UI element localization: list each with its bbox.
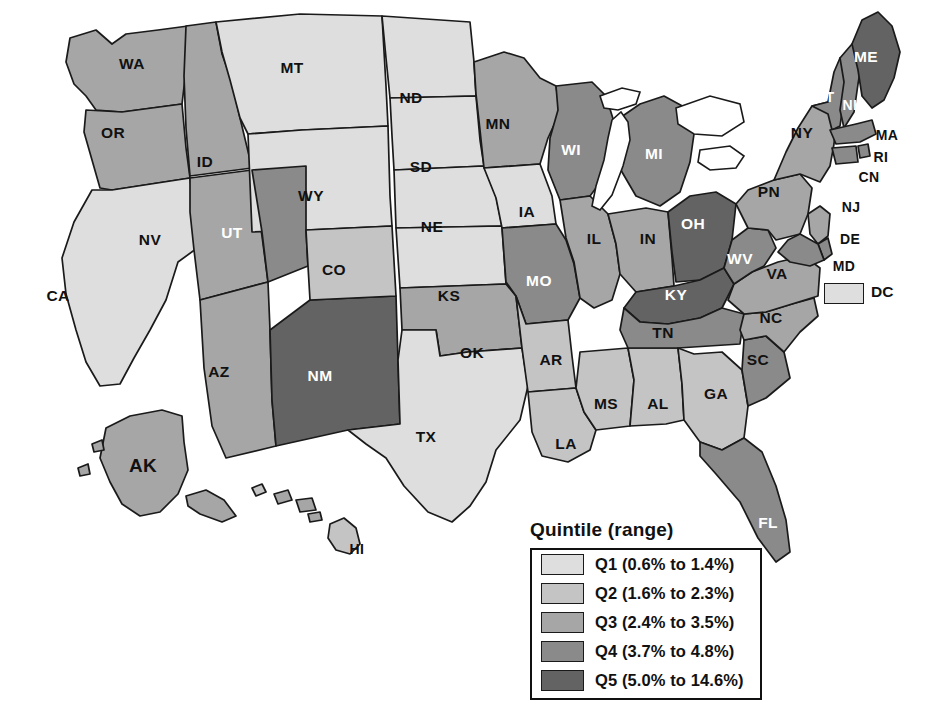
state-ca[interactable] xyxy=(62,178,200,386)
state-label-ut: UT xyxy=(221,225,242,241)
state-ri[interactable] xyxy=(858,144,870,158)
state-label-hi: HI xyxy=(350,542,365,556)
state-nm[interactable] xyxy=(270,296,400,446)
state-label-ri: RI xyxy=(874,150,889,164)
island-shape xyxy=(92,440,104,452)
dc-swatch xyxy=(824,283,864,304)
island-shape xyxy=(252,484,266,496)
state-label-ak: AK xyxy=(129,456,157,475)
state-label-tx: TX xyxy=(416,429,437,445)
state-label-md: MD xyxy=(833,259,856,273)
legend-swatch-q3 xyxy=(541,612,584,633)
state-label-il: IL xyxy=(587,231,602,247)
legend-label-q4: Q4 (3.7% to 4.8%) xyxy=(595,642,734,661)
state-label-ar: AR xyxy=(539,352,562,368)
state-label-ny: NY xyxy=(791,125,813,141)
dc-label: DC xyxy=(871,283,893,301)
state-label-id: ID xyxy=(197,154,213,170)
state-label-vt: VT xyxy=(816,90,835,104)
state-label-la: LA xyxy=(555,436,576,452)
state-ks[interactable] xyxy=(396,226,506,288)
island-shape xyxy=(308,512,322,522)
state-sd[interactable] xyxy=(390,96,484,170)
state-mn[interactable] xyxy=(474,52,560,168)
legend-row-q5[interactable]: Q5 (5.0% to 14.6%) xyxy=(541,666,760,695)
legend-label-q5: Q5 (5.0% to 14.6%) xyxy=(595,671,744,690)
state-label-nc: NC xyxy=(759,310,782,326)
state-label-wa: WA xyxy=(119,56,145,72)
state-label-sd: SD xyxy=(410,159,432,175)
legend-swatch-q5 xyxy=(541,670,584,691)
state-label-fl: FL xyxy=(758,515,778,531)
state-label-wy: WY xyxy=(298,188,324,204)
state-label-ks: KS xyxy=(438,288,460,304)
state-ne[interactable] xyxy=(394,166,502,228)
state-cn[interactable] xyxy=(832,146,858,164)
legend-label-q1: Q1 (0.6% to 1.4%) xyxy=(595,555,734,574)
state-label-pn: PN xyxy=(758,184,780,200)
state-label-co: CO xyxy=(322,262,346,278)
state-label-nm: NM xyxy=(308,368,333,384)
state-label-tn: TN xyxy=(652,325,673,341)
legend-row-q3[interactable]: Q3 (2.4% to 3.5%) xyxy=(541,608,760,637)
legend-row-q2[interactable]: Q2 (1.6% to 2.3%) xyxy=(541,579,760,608)
state-label-mi: MI xyxy=(645,146,663,162)
state-label-nh: NH xyxy=(842,98,863,112)
state-label-me: ME xyxy=(854,49,878,65)
state-or[interactable] xyxy=(84,104,190,190)
legend-row-q1[interactable]: Q1 (0.6% to 1.4%) xyxy=(541,550,760,579)
legend-box: Q1 (0.6% to 1.4%)Q2 (1.6% to 2.3%)Q3 (2.… xyxy=(530,548,762,700)
state-fl[interactable] xyxy=(700,438,790,562)
state-label-sc: SC xyxy=(747,352,769,368)
legend-swatch-q4 xyxy=(541,641,584,662)
legend-row-q4[interactable]: Q4 (3.7% to 4.8%) xyxy=(541,637,760,666)
state-label-wi: WI xyxy=(561,142,581,158)
state-label-nv: NV xyxy=(139,232,161,248)
state-label-wv: WV xyxy=(727,251,753,267)
state-label-cn: CN xyxy=(858,170,879,184)
state-label-mt: MT xyxy=(280,60,303,76)
state-label-or: OR xyxy=(101,125,125,141)
island-shape xyxy=(296,498,316,512)
state-label-va: VA xyxy=(766,266,787,282)
state-label-oh: OH xyxy=(681,216,705,232)
figure-canvas: WAORCANVIDMTWYUTAZNMCONDSDNEKSOKTXMNIAMO… xyxy=(0,0,931,714)
state-nd[interactable] xyxy=(382,16,476,98)
state-label-ma: MA xyxy=(876,128,899,142)
state-label-in: IN xyxy=(640,231,656,247)
state-label-nj: NJ xyxy=(842,200,861,214)
state-label-ms: MS xyxy=(594,396,618,412)
island-shape xyxy=(186,490,236,522)
state-co[interactable] xyxy=(306,226,396,300)
state-label-nd: ND xyxy=(399,90,422,106)
island-shape xyxy=(78,464,90,476)
state-al[interactable] xyxy=(628,348,684,426)
state-label-mn: MN xyxy=(486,116,511,132)
legend-title: Quintile (range) xyxy=(530,519,674,541)
state-label-mo: MO xyxy=(526,273,552,289)
state-label-ok: OK xyxy=(460,345,484,361)
state-label-ky: KY xyxy=(665,287,687,303)
legend-swatch-q2 xyxy=(541,583,584,604)
state-label-al: AL xyxy=(647,396,668,412)
state-label-ia: IA xyxy=(519,204,535,220)
state-label-az: AZ xyxy=(208,364,229,380)
legend-label-q2: Q2 (1.6% to 2.3%) xyxy=(595,584,734,603)
legend-label-q3: Q3 (2.4% to 3.5%) xyxy=(595,613,734,632)
island-shape xyxy=(274,490,292,504)
legend-swatch-q1 xyxy=(541,554,584,575)
state-label-de: DE xyxy=(840,232,860,246)
state-label-ga: GA xyxy=(704,386,728,402)
state-label-ne: NE xyxy=(421,219,443,235)
state-label-ca: CA xyxy=(46,288,69,304)
